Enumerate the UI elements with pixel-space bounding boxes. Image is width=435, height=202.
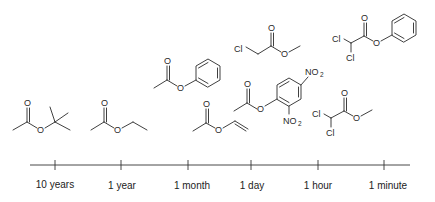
chlorine-label-1: Cl: [332, 34, 341, 44]
tick-label-10-years: 10 years: [36, 179, 74, 190]
tick-label-1-day: 1 day: [240, 180, 264, 191]
ester-oxygen-label: O: [177, 83, 184, 93]
svg-text:2: 2: [320, 71, 324, 78]
chlorine-label-2: Cl: [346, 53, 355, 63]
carbonyl-oxygen-label: O: [244, 79, 251, 89]
carbonyl-oxygen-label: O: [164, 56, 171, 66]
chlorine-label: Cl: [234, 44, 243, 54]
ester-oxygen-label: O: [353, 113, 360, 123]
molecule-phenyl-dichloroacetate: Cl Cl O O: [332, 13, 416, 63]
svg-text:NO: NO: [305, 67, 319, 77]
nitro-group-para: NO 2: [305, 67, 324, 78]
tick-label-1-year: 1 year: [108, 180, 136, 191]
timeline-axis: 10 years 1 year 1 month 1 day 1 hour 1 m…: [30, 160, 410, 191]
carbonyl-oxygen-label: O: [24, 98, 31, 108]
carbonyl-oxygen-label: O: [268, 23, 275, 33]
ester-oxygen-label: O: [114, 125, 121, 135]
ester-oxygen-label: O: [281, 49, 288, 59]
svg-text:2: 2: [298, 120, 302, 127]
chlorine-label-1: Cl: [312, 109, 321, 119]
tick-label-1-minute: 1 minute: [369, 180, 408, 191]
molecule-tert-butyl-acetate: O O: [13, 98, 70, 135]
nitro-group-ortho: NO 2: [283, 116, 302, 127]
ester-oxygen-label: O: [37, 125, 44, 135]
ester-hydrolysis-timescale-diagram: O O O O O O O O: [0, 0, 435, 202]
ester-oxygen-label: O: [373, 38, 380, 48]
ester-oxygen-label: O: [257, 104, 264, 114]
molecule-dinitrophenyl-acetate: O O NO 2 NO 2: [234, 67, 324, 127]
ester-oxygen-label: O: [215, 125, 222, 135]
molecule-ethyl-acetate: O O: [91, 98, 147, 135]
carbonyl-oxygen-label: O: [101, 98, 108, 108]
tick-label-1-hour: 1 hour: [304, 180, 333, 191]
molecule-phenyl-acetate: O O: [154, 56, 220, 93]
molecule-methyl-dichloroacetate: Cl Cl O O: [312, 88, 372, 138]
chlorine-label-2: Cl: [326, 128, 335, 138]
molecule-vinyl-acetate: O O: [193, 99, 248, 135]
carbonyl-oxygen-label: O: [203, 99, 210, 109]
tick-label-1-month: 1 month: [174, 180, 210, 191]
svg-text:NO: NO: [283, 116, 297, 126]
carbonyl-oxygen-label: O: [341, 88, 348, 98]
carbonyl-oxygen-label: O: [361, 13, 368, 23]
molecule-methyl-chloroacetate: Cl O O: [234, 23, 300, 59]
